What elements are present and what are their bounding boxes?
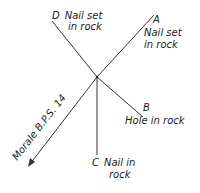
- label-c-line2: rock: [109, 169, 132, 180]
- survey-reference-diagram: DNail set in rock A Nail set in rock B H…: [0, 0, 200, 193]
- label-a-line1: Nail set: [144, 27, 183, 38]
- line-to-b: [97, 77, 143, 117]
- center-point: [96, 76, 99, 79]
- label-b-letter: B: [143, 102, 150, 113]
- label-b-line1: Hole in rock: [125, 115, 186, 126]
- label-c: CNail in: [92, 157, 135, 168]
- label-d-line2: in rock: [68, 21, 103, 32]
- label-a-line2: in rock: [144, 39, 179, 50]
- label-d: DNail set: [52, 10, 103, 21]
- label-a-letter: A: [152, 14, 160, 25]
